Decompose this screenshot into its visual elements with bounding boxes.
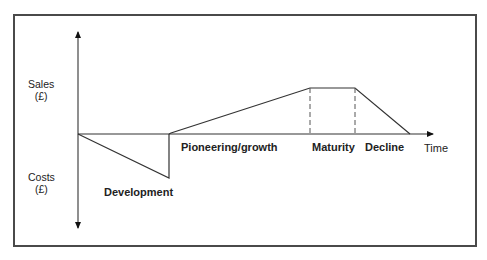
y-axis-sales-label: Sales (£) [28, 78, 54, 102]
sales-unit: (£) [28, 90, 54, 102]
y-axis-costs-label: Costs (£) [28, 171, 55, 195]
sales-label: Sales [28, 78, 54, 90]
phase-development: Development [104, 186, 173, 198]
development-curve [78, 134, 169, 178]
sales-curve [169, 88, 410, 134]
phase-pioneering-growth: Pioneering/growth [181, 141, 278, 153]
costs-unit: (£) [28, 183, 55, 195]
phase-maturity: Maturity [312, 141, 355, 153]
phase-decline: Decline [365, 141, 404, 153]
life-cycle-plot [0, 0, 487, 260]
x-axis-time-label: Time [424, 142, 448, 154]
costs-label: Costs [28, 171, 55, 183]
